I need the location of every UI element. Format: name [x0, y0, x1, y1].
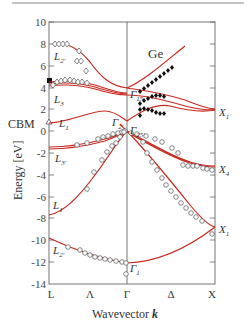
- band-structure-chart: 10 8 6 4 2 0 -2 -4 -6 -8 -10 -12 -14 Ene…: [0, 0, 247, 333]
- svg-text:L1: L1: [58, 117, 69, 132]
- y-axis-label: Energy [eV]: [11, 141, 25, 200]
- svg-text:8: 8: [41, 38, 47, 50]
- svg-text:Λ: Λ: [86, 288, 94, 300]
- svg-text:L3': L3': [54, 152, 67, 167]
- svg-text:-12: -12: [31, 256, 46, 268]
- svg-text:-10: -10: [31, 234, 46, 246]
- svg-text:X: X: [208, 288, 216, 300]
- filled-diamond-markers: [138, 65, 174, 118]
- svg-text:-6: -6: [37, 191, 47, 203]
- svg-text:X4: X4: [218, 163, 230, 178]
- open-diamond-markers: [51, 41, 90, 88]
- svg-text:X1: X1: [218, 223, 229, 238]
- band-curves: [49, 44, 215, 263]
- svg-text:Γ: Γ: [124, 288, 130, 300]
- svg-text:Δ: Δ: [167, 288, 174, 300]
- svg-text:-4: -4: [37, 169, 47, 181]
- chart-title: Ge: [148, 46, 163, 61]
- svg-text:0: 0: [41, 125, 47, 137]
- svg-text:10: 10: [35, 16, 47, 28]
- plot-frame: [49, 22, 215, 284]
- svg-text:L2': L2': [53, 50, 66, 65]
- svg-text:Γ1: Γ1: [129, 262, 140, 277]
- y-tick-labels: 10 8 6 4 2 0 -2 -4 -6 -8 -10 -12 -14: [31, 16, 46, 290]
- svg-text:L2': L2': [52, 244, 65, 259]
- cbm-label: CBM: [8, 117, 35, 131]
- svg-text:4: 4: [41, 82, 47, 94]
- svg-text:6: 6: [41, 60, 47, 72]
- svg-text:L: L: [48, 288, 55, 300]
- svg-text:Γ25': Γ25': [129, 124, 145, 139]
- y-ticks: [49, 22, 215, 262]
- x-category-labels: L Λ Γ Δ X: [48, 288, 216, 300]
- open-circle-markers: [66, 129, 215, 277]
- svg-text:X1: X1: [218, 106, 229, 121]
- x-axis-label: Wavevector k: [92, 307, 158, 321]
- svg-text:-2: -2: [37, 147, 46, 159]
- svg-text:L3: L3: [53, 93, 64, 108]
- svg-text:-14: -14: [31, 278, 46, 290]
- svg-text:Γ2': Γ2': [111, 116, 124, 131]
- svg-text:2: 2: [41, 103, 47, 115]
- svg-text:-8: -8: [37, 212, 47, 224]
